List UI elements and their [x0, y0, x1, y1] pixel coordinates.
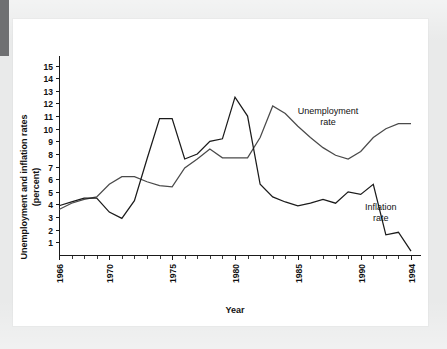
- x-tick-label: 1994: [407, 264, 417, 283]
- y-tick-label: 5: [48, 188, 53, 198]
- y-axis-tick-labels: 123456789101112131415: [44, 62, 54, 248]
- y-tick-label: 11: [44, 112, 53, 122]
- y-axis-title: Unemployment and inflation rates (percen…: [19, 114, 41, 259]
- series-line-inflation-rate: [59, 97, 411, 251]
- page-left-edge-tab: [0, 0, 9, 56]
- x-tick-label: 1990: [357, 264, 367, 283]
- series-annotation-line1: Unemployment: [298, 106, 359, 116]
- y-tick-label: 1: [48, 238, 53, 248]
- x-tick-label: 1975: [168, 264, 178, 283]
- y-tick-label: 14: [44, 74, 54, 84]
- x-axis-ticks: [60, 256, 412, 260]
- x-tick-label: 1980: [231, 264, 241, 283]
- y-tick-label: 8: [48, 150, 53, 160]
- series-annotation-line2: rate: [320, 117, 336, 127]
- y-tick-label: 3: [48, 213, 53, 223]
- y-tick-label: 4: [48, 200, 53, 210]
- x-tick-label: 1985: [294, 264, 304, 283]
- series-annotation-line1: Inflation: [365, 202, 397, 212]
- y-tick-label: 2: [48, 226, 53, 236]
- y-tick-label: 12: [44, 99, 54, 109]
- y-tick-label: 7: [48, 163, 53, 173]
- figure-card: Unemployment and inflation rates (percen…: [13, 19, 428, 326]
- y-tick-label: 6: [48, 175, 53, 185]
- series-annotations: UnemploymentrateInflationrate: [298, 106, 397, 223]
- x-tick-label: 1970: [105, 264, 115, 283]
- y-axis-title-line2: (percent): [31, 168, 41, 207]
- series-annotation-line2: rate: [373, 213, 389, 223]
- y-tick-label: 15: [44, 62, 54, 72]
- line-chart: Unemployment and inflation rates (percen…: [13, 19, 428, 326]
- y-tick-label: 9: [48, 137, 53, 147]
- y-axis-ticks: [56, 67, 59, 243]
- x-tick-label: 1966: [55, 264, 65, 283]
- x-axis-title: Year: [225, 305, 245, 315]
- y-axis-title-line1: Unemployment and inflation rates: [19, 114, 29, 259]
- x-axis-tick-labels: 1966197019751980198519901994: [55, 264, 417, 283]
- y-tick-label: 10: [44, 125, 54, 135]
- page-background: Unemployment and inflation rates (percen…: [0, 0, 447, 349]
- y-tick-label: 13: [44, 87, 54, 97]
